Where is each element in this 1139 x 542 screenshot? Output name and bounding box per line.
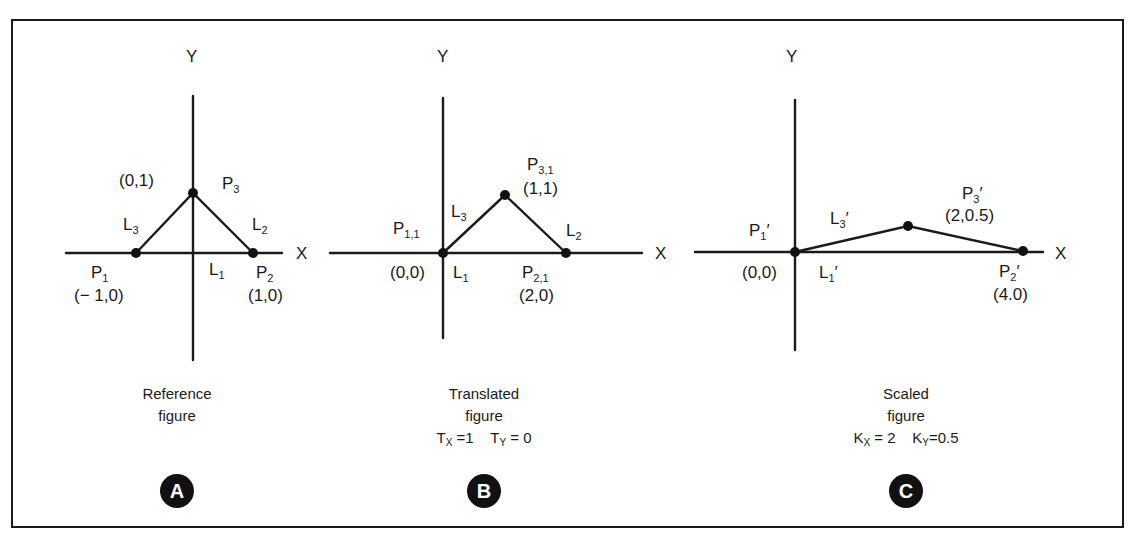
point-subscript: 3,1 bbox=[538, 164, 553, 176]
panel-c-p1-label: P1′ bbox=[749, 222, 770, 239]
panel-b-l2-label: L2 bbox=[566, 222, 582, 239]
point-name: P bbox=[91, 263, 102, 282]
panel-c-y-label: Y bbox=[786, 48, 797, 65]
panel-a-p1-label: P1 bbox=[91, 264, 108, 281]
panel-a-caption: Reference figure bbox=[142, 383, 211, 427]
panel-b-p31-coord: (1,1) bbox=[523, 180, 558, 197]
param-name: T bbox=[436, 429, 445, 446]
point-name: P bbox=[393, 219, 404, 238]
panel-b-p21-label: P2,1 bbox=[522, 264, 549, 281]
panel-b-point-p11 bbox=[438, 248, 448, 258]
param-value: =1 bbox=[452, 429, 473, 446]
panel-c-l3-label: L3′ bbox=[830, 210, 849, 227]
param-value: = 2 bbox=[870, 429, 895, 446]
panel-b-point-p21 bbox=[561, 248, 571, 258]
panel-c-point-p3 bbox=[903, 221, 913, 231]
panel-a-p3-label: P3 bbox=[222, 175, 239, 192]
panel-c-badge: C bbox=[889, 474, 923, 508]
param-name: K bbox=[853, 429, 863, 446]
point-subscript: 1,1 bbox=[404, 228, 419, 240]
point-name: P bbox=[527, 155, 538, 174]
point-subscript: 3 bbox=[233, 183, 239, 195]
point-name: P bbox=[256, 263, 267, 282]
panel-a-y-label: Y bbox=[186, 48, 197, 65]
prime-mark: ′ bbox=[846, 209, 849, 228]
point-name: P bbox=[999, 262, 1010, 281]
point-name: P bbox=[222, 174, 233, 193]
param-subscript: X bbox=[446, 437, 453, 448]
point-name: P bbox=[749, 221, 760, 240]
panel-a-l1-label: L1 bbox=[209, 261, 225, 278]
panel-b-l1-label: L1 bbox=[453, 264, 469, 281]
param-value: =0.5 bbox=[929, 429, 959, 446]
panel-a-x-label: X bbox=[296, 245, 307, 262]
panel-c-l1-label: L1′ bbox=[819, 264, 838, 281]
param-value: = 0 bbox=[506, 429, 531, 446]
panel-c-p2-label: P2′ bbox=[999, 263, 1020, 280]
line-subscript: 2 bbox=[575, 230, 581, 242]
transform-diagram bbox=[0, 0, 1139, 542]
caption-line: figure bbox=[853, 405, 958, 427]
panel-c-caption: Scaled figure KX = 2 KY=0.5 bbox=[853, 383, 958, 449]
panel-c-point-p1 bbox=[790, 247, 800, 257]
panel-a-l2-label: L2 bbox=[252, 216, 268, 233]
panel-b-y-label: Y bbox=[437, 48, 448, 65]
line-subscript: 3 bbox=[132, 224, 138, 236]
panel-b-point-p31 bbox=[500, 190, 510, 200]
panel-c-p2-coord: (4.0) bbox=[993, 286, 1028, 303]
panel-b-caption: Translated figure TX =1 TY = 0 bbox=[436, 383, 531, 449]
point-name: P bbox=[522, 263, 533, 282]
prime-mark: ′ bbox=[979, 184, 982, 203]
panel-c-x-label: X bbox=[1055, 245, 1066, 262]
panel-b-params: TX =1 TY = 0 bbox=[436, 427, 531, 449]
panel-a-triangle bbox=[136, 193, 253, 253]
line-subscript: 1 bbox=[218, 269, 224, 281]
prime-mark: ′ bbox=[835, 263, 838, 282]
panel-b-l3-label: L3 bbox=[451, 203, 467, 220]
caption-line: figure bbox=[142, 405, 211, 427]
param-name: T bbox=[490, 429, 499, 446]
prime-mark: ′ bbox=[766, 221, 769, 240]
panel-c-p3-coord: (2,0.5) bbox=[945, 207, 994, 224]
panel-a-point-p1 bbox=[131, 248, 141, 258]
panel-a-p3-coord: (0,1) bbox=[119, 172, 154, 189]
panel-a-p2-label: P2 bbox=[256, 264, 273, 281]
prime-mark: ′ bbox=[1016, 262, 1019, 281]
caption-line: Translated bbox=[436, 383, 531, 405]
point-name: P bbox=[962, 184, 973, 203]
panel-b-x-label: X bbox=[655, 245, 666, 262]
caption-line: Reference bbox=[142, 383, 211, 405]
panel-a-l3-label: L3 bbox=[123, 216, 139, 233]
panel-b-p31-label: P3,1 bbox=[527, 156, 554, 173]
panel-a-point-p3 bbox=[188, 188, 198, 198]
panel-b-p11-label: P1,1 bbox=[393, 220, 420, 237]
caption-line: figure bbox=[436, 405, 531, 427]
panel-b-p11-coord: (0,0) bbox=[390, 264, 425, 281]
panel-a-p1-coord: (− 1,0) bbox=[74, 287, 124, 304]
panel-a-p2-coord: (1,0) bbox=[248, 287, 283, 304]
param-name: K bbox=[912, 429, 922, 446]
panel-c-point-p2 bbox=[1018, 246, 1028, 256]
line-subscript: 2 bbox=[261, 224, 267, 236]
caption-line: Scaled bbox=[853, 383, 958, 405]
panel-c-p1-coord: (0,0) bbox=[742, 264, 777, 281]
line-subscript: 3 bbox=[460, 211, 466, 223]
panel-c-p3-label: P3′ bbox=[962, 185, 983, 202]
point-subscript: 1 bbox=[102, 272, 108, 284]
panel-b-p21-coord: (2,0) bbox=[519, 287, 554, 304]
panel-c-params: KX = 2 KY=0.5 bbox=[853, 427, 958, 449]
point-subscript: 2 bbox=[267, 272, 273, 284]
panel-a-point-p2 bbox=[248, 248, 258, 258]
point-subscript: 2,1 bbox=[533, 272, 548, 284]
param-subscript: Y bbox=[499, 437, 506, 448]
panel-b-badge: B bbox=[467, 474, 501, 508]
param-subscript: X bbox=[863, 437, 870, 448]
line-subscript: 1 bbox=[462, 272, 468, 284]
panel-a-badge: A bbox=[160, 474, 194, 508]
